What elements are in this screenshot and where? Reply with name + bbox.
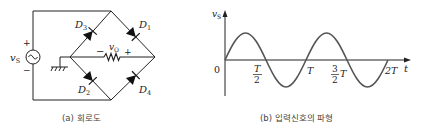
y-axis-arrow-icon (223, 10, 228, 17)
waveform-caption: (b) 입력신호의 파형 (260, 111, 333, 123)
svg-text:3: 3 (332, 64, 338, 74)
tick-label-three-half-T: 3 2 T (331, 64, 347, 85)
svg-text:T: T (254, 63, 261, 74)
tick-label-T: T (307, 65, 314, 76)
x-axis-label: t (404, 63, 409, 74)
y-axis-label: vS (212, 9, 221, 20)
svg-text:2: 2 (332, 75, 338, 85)
svg-text:2: 2 (254, 75, 260, 85)
input-waveform-plot: vS t 0 T 2 T 3 2 T 2T (0, 0, 425, 131)
tick-label-2T: 2T (384, 65, 398, 76)
origin-label: 0 (214, 64, 220, 75)
waveform-panel: vS t 0 T 2 T 3 2 T 2T (b) 입력신호의 파형 (0, 0, 425, 131)
plot-axes (225, 14, 406, 96)
x-axis-arrow-icon (404, 58, 411, 63)
tick-label-half-T: T 2 (253, 63, 262, 85)
svg-text:T: T (340, 68, 347, 79)
